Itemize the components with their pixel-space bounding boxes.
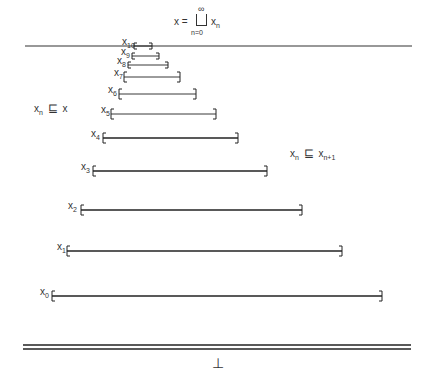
interval-label-x3: x3 <box>81 162 90 176</box>
interval-x4 <box>103 133 238 143</box>
interval-chain <box>52 43 382 301</box>
limit-formula: x = ∞ n=0 xn <box>174 4 274 40</box>
interval-label-x5: x5 <box>101 105 110 119</box>
interval-x9 <box>132 53 159 59</box>
formula-lhs: x = <box>174 16 188 27</box>
interval-x6 <box>119 89 196 99</box>
interval-x7 <box>124 72 180 82</box>
interval-label-x1: x1 <box>57 242 66 256</box>
interval-x5 <box>111 109 216 119</box>
bottom-element-symbol: ⊥ <box>212 356 224 370</box>
join-operator-icon <box>196 14 207 26</box>
formula-lower-bound: n=0 <box>191 29 203 36</box>
interval-x8 <box>128 62 168 68</box>
approx-order-icon: ⊑ <box>48 101 58 115</box>
formula-upper-bound: ∞ <box>198 4 204 14</box>
interval-label-x2: x2 <box>68 201 77 215</box>
interval-label-x7: x7 <box>114 68 123 82</box>
interval-x3 <box>93 166 267 176</box>
interval-label-x0: x0 <box>40 287 49 301</box>
interval-x1 <box>67 246 342 256</box>
interval-label-x4: x4 <box>91 129 100 143</box>
interval-x10 <box>134 43 152 49</box>
left-annotation: xn ⊑ x <box>34 103 67 118</box>
interval-label-x6: x6 <box>108 85 117 99</box>
interval-x2 <box>81 205 302 215</box>
diagram-canvas <box>0 0 433 382</box>
interval-label-x10: x10 <box>122 37 135 51</box>
interval-x0 <box>52 291 382 301</box>
right-annotation: xn ⊑ xn+1 <box>290 148 335 163</box>
reference-lines <box>23 46 412 349</box>
formula-rhs: xn <box>211 16 220 29</box>
approx-order-icon: ⊑ <box>304 146 314 160</box>
